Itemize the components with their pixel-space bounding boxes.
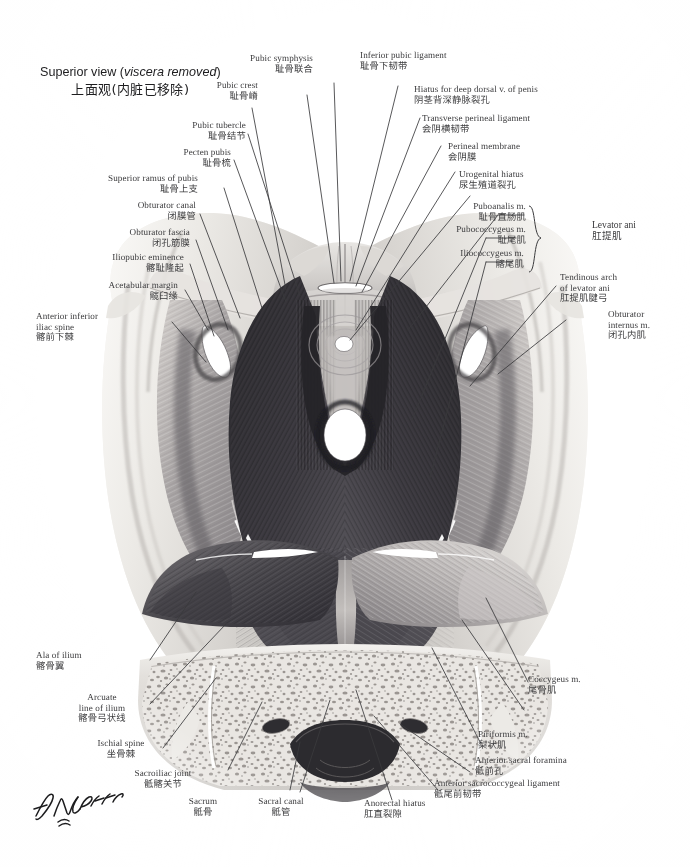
label-iliopubic-eminence: Iliopubic eminence 髂耻隆起 [54, 252, 184, 274]
label-acetabular-margin-cn: 髋臼缘 [32, 291, 178, 302]
label-ischial-spine-en: Ischial spine [75, 738, 167, 749]
label-pubic-crest-en: Pubic crest [184, 80, 258, 91]
label-inferior-pubic-ligament-cn: 耻骨下韧带 [360, 61, 447, 72]
label-anterior-sacral-foramina-en: Anterior sacral foramina [475, 755, 567, 766]
label-anterior-sacrococcygeal-ligament-en: Anterior sacrococcygeal ligament [434, 778, 560, 789]
label-tendinous-arch-en-2: of levator ani [560, 283, 617, 294]
label-sacroiliac-joint-en: Sacroiliac joint [108, 768, 218, 779]
label-superior-ramus-pubis-cn: 耻骨上支 [62, 184, 198, 195]
label-urogenital-hiatus-en: Urogenital hiatus [459, 169, 524, 180]
label-anterior-sacral-foramina: Anterior sacral foramina 骶前孔 [475, 755, 567, 777]
label-arcuate-line-ilium-cn: 髂骨弓状线 [54, 713, 150, 724]
label-pubococcygeus-cn: 耻尾肌 [426, 235, 526, 246]
label-pubic-tubercle-cn: 耻骨结节 [150, 131, 246, 142]
label-inferior-pubic-ligament-en: Inferior pubic ligament [360, 50, 447, 61]
label-obturator-fascia: Obturator fascia 闭孔筋膜 [62, 227, 190, 249]
label-ala-of-ilium-en: Ala of ilium [36, 650, 82, 661]
label-sacral-canal-en: Sacral canal [245, 796, 317, 807]
label-iliococcygeus-en: Iliococcygeus m. [428, 248, 524, 259]
label-anterior-sacral-foramina-cn: 骶前孔 [475, 766, 567, 777]
label-pubic-tubercle-en: Pubic tubercle [150, 120, 246, 131]
label-superior-ramus-pubis-en: Superior ramus of pubis [62, 173, 198, 184]
label-pubococcygeus: Pubococcygeus m. 耻尾肌 [426, 224, 526, 246]
label-pubic-symphysis-en: Pubic symphysis [183, 53, 313, 64]
label-coccygeus-cn: 尾骨肌 [528, 685, 581, 696]
label-anterior-sacrococcygeal-ligament: Anterior sacrococcygeal ligament 骶尾前韧带 [434, 778, 560, 800]
view-caption-en-part1: Superior view ( [40, 65, 124, 79]
label-anterior-inferior-iliac-spine-en-1: Anterior inferior [36, 311, 98, 322]
label-sacral-canal: Sacral canal 骶管 [245, 796, 317, 818]
label-transverse-perineal-ligament-en: Transverse perineal ligament [422, 113, 530, 124]
label-arcuate-line-ilium-en-2: line of ilium [54, 703, 150, 714]
label-pubic-tubercle: Pubic tubercle 耻骨结节 [150, 120, 246, 142]
label-perineal-membrane: Perineal membrane 会阴膜 [448, 141, 520, 163]
label-tendinous-arch-cn: 肛提肌腱弓 [560, 293, 617, 304]
label-pubococcygeus-en: Pubococcygeus m. [426, 224, 526, 235]
label-piriformis-cn: 梨状肌 [478, 740, 528, 751]
label-anorectal-hiatus-cn: 肛直裂隙 [364, 809, 425, 820]
label-anterior-inferior-iliac-spine: Anterior inferior iliac spine 髂前下棘 [36, 311, 98, 343]
label-coccygeus: Coccygeus m. 尾骨肌 [528, 674, 581, 696]
label-sacrum-en: Sacrum [172, 796, 234, 807]
illustration-page: Superior view (viscera removed) 上面观(内脏已移… [0, 0, 690, 867]
label-pubic-symphysis: Pubic symphysis 耻骨联合 [183, 53, 313, 75]
label-coccygeus-en: Coccygeus m. [528, 674, 581, 685]
label-iliopubic-eminence-cn: 髂耻隆起 [54, 263, 184, 274]
label-obturator-internus-en-1: Obturator [608, 309, 650, 320]
label-pubic-crest: Pubic crest 耻骨嵴 [184, 80, 258, 102]
label-iliopubic-eminence-en: Iliopubic eminence [54, 252, 184, 263]
label-obturator-internus-cn: 闭孔内肌 [608, 330, 650, 341]
label-hiatus-deep-dorsal-vein: Hiatus for deep dorsal v. of penis 阴茎背深静… [414, 84, 538, 106]
label-obturator-fascia-cn: 闭孔筋膜 [62, 238, 190, 249]
artist-signature [30, 786, 126, 832]
label-arcuate-line-ilium: Arcuate line of ilium 髂骨弓状线 [54, 692, 150, 724]
label-anorectal-hiatus-en: Anorectal hiatus [364, 798, 425, 809]
label-obturator-internus: Obturator internus m. 闭孔内肌 [608, 309, 650, 341]
label-hiatus-deep-dorsal-vein-en: Hiatus for deep dorsal v. of penis [414, 84, 538, 95]
label-sacrum: Sacrum 骶骨 [172, 796, 234, 818]
label-anterior-inferior-iliac-spine-en-2: iliac spine [36, 322, 98, 333]
label-levator-ani-group: Levator ani 肛提肌 [592, 219, 636, 242]
label-pecten-pubis-cn: 耻骨梳 [145, 158, 231, 169]
label-levator-ani-en: Levator ani [592, 219, 636, 230]
label-pubic-crest-cn: 耻骨嵴 [184, 91, 258, 102]
label-piriformis-en: Piriformis m. [478, 729, 528, 740]
label-iliococcygeus-cn: 髂尾肌 [428, 259, 524, 270]
label-superior-ramus-pubis: Superior ramus of pubis 耻骨上支 [62, 173, 198, 195]
label-tendinous-arch: Tendinous arch of levator ani 肛提肌腱弓 [560, 272, 617, 304]
label-piriformis: Piriformis m. 梨状肌 [478, 729, 528, 751]
label-transverse-perineal-ligament-cn: 会阴横韧带 [422, 124, 530, 135]
anatomical-illustration [0, 0, 690, 867]
label-urogenital-hiatus: Urogenital hiatus 尿生殖道裂孔 [459, 169, 524, 191]
label-sacrum-cn: 骶骨 [172, 807, 234, 818]
label-acetabular-margin-en: Acetabular margin [32, 280, 178, 291]
label-ala-of-ilium: Ala of ilium 髂骨翼 [36, 650, 82, 672]
label-puboanalis: Puboanalis m. 耻骨直肠肌 [440, 201, 526, 223]
label-levator-ani-cn: 肛提肌 [592, 230, 636, 241]
levator-ani-brace [527, 204, 545, 274]
label-tendinous-arch-en-1: Tendinous arch [560, 272, 617, 283]
label-ischial-spine: Ischial spine 坐骨棘 [75, 738, 167, 760]
label-obturator-fascia-en: Obturator fascia [62, 227, 190, 238]
label-iliococcygeus: Iliococcygeus m. 髂尾肌 [428, 248, 524, 270]
label-ischial-spine-cn: 坐骨棘 [75, 749, 167, 760]
label-perineal-membrane-cn: 会阴膜 [448, 152, 520, 163]
label-obturator-internus-en-2: internus m. [608, 320, 650, 331]
label-anterior-sacrococcygeal-ligament-cn: 骶尾前韧带 [434, 789, 560, 800]
label-acetabular-margin: Acetabular margin 髋臼缘 [32, 280, 178, 302]
label-urogenital-hiatus-cn: 尿生殖道裂孔 [459, 180, 524, 191]
label-hiatus-deep-dorsal-vein-cn: 阴茎背深静脉裂孔 [414, 95, 538, 106]
label-obturator-canal-cn: 闭膜管 [74, 211, 196, 222]
label-inferior-pubic-ligament: Inferior pubic ligament 耻骨下韧带 [360, 50, 447, 72]
label-transverse-perineal-ligament: Transverse perineal ligament 会阴横韧带 [422, 113, 530, 135]
label-pecten-pubis-en: Pecten pubis [145, 147, 231, 158]
label-anterior-inferior-iliac-spine-cn: 髂前下棘 [36, 332, 98, 343]
label-puboanalis-en: Puboanalis m. [440, 201, 526, 212]
label-pubic-symphysis-cn: 耻骨联合 [183, 64, 313, 75]
label-obturator-canal-en: Obturator canal [74, 200, 196, 211]
label-puboanalis-cn: 耻骨直肠肌 [440, 212, 526, 223]
label-perineal-membrane-en: Perineal membrane [448, 141, 520, 152]
label-pecten-pubis: Pecten pubis 耻骨梳 [145, 147, 231, 169]
label-sacral-canal-cn: 骶管 [245, 807, 317, 818]
label-ala-of-ilium-cn: 髂骨翼 [36, 661, 82, 672]
